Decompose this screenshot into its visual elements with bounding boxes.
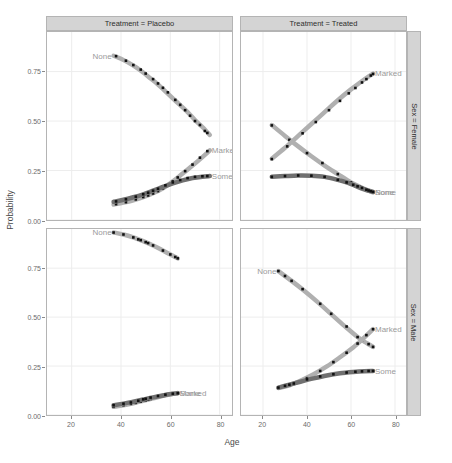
data-point — [112, 404, 115, 407]
data-point — [361, 370, 364, 373]
data-point — [345, 351, 348, 354]
series-marked: Marked — [277, 325, 402, 389]
data-point — [176, 392, 179, 395]
data-point — [319, 302, 322, 305]
facet-panel-female-placebo: NoneMarkedSome — [46, 31, 233, 221]
data-point — [125, 59, 128, 62]
data-point — [339, 100, 342, 103]
facet-strip-col-label: Treatment = Treated — [290, 19, 358, 28]
x-axis-tick-mark — [307, 416, 308, 419]
data-point — [284, 385, 287, 388]
x-axis-tick-label: 80 — [217, 421, 225, 428]
curve-label-some: Some — [375, 367, 396, 376]
y-axis-tick-label: 0.25 — [14, 168, 41, 175]
data-point — [288, 383, 291, 386]
x-axis-tick-mark — [351, 416, 352, 419]
data-point — [345, 181, 348, 184]
curve-label-none: None — [257, 267, 277, 276]
data-point — [162, 87, 165, 90]
data-point — [157, 395, 160, 398]
series-band — [114, 56, 210, 135]
data-point — [191, 163, 194, 166]
series-band — [278, 271, 373, 347]
data-point — [356, 336, 359, 339]
data-point — [144, 241, 147, 244]
panel-plot-area: NoneMarkedSome — [47, 32, 232, 220]
data-point — [137, 238, 140, 241]
data-point — [172, 181, 175, 184]
curve-label-marked: Marked — [375, 69, 402, 78]
data-point — [132, 64, 135, 67]
data-point — [152, 244, 155, 247]
data-point — [147, 242, 150, 245]
x-axis-tick-mark — [71, 416, 72, 419]
data-point — [372, 346, 375, 349]
series-some: Some — [112, 389, 201, 406]
series-band — [114, 176, 210, 202]
data-point — [365, 334, 368, 337]
data-point — [277, 270, 280, 273]
x-axis-tick-mark — [396, 416, 397, 419]
y-axis-tick-label: 0.75 — [14, 264, 41, 271]
data-point — [293, 382, 296, 385]
data-point — [301, 288, 304, 291]
data-point — [271, 124, 274, 127]
facet-strip-row-1: Sex = Male — [407, 228, 421, 416]
data-point — [206, 132, 209, 135]
data-point — [356, 342, 359, 345]
y-axis-tick-label: 0.75 — [14, 68, 41, 75]
y-axis-tick-label: 0.50 — [14, 314, 41, 321]
data-point — [157, 82, 160, 85]
data-point — [169, 253, 172, 256]
data-point — [149, 396, 152, 399]
x-axis-tick-mark — [171, 416, 172, 419]
data-point — [297, 174, 300, 177]
y-axis-tick-mark — [42, 416, 45, 417]
series-some: Some — [277, 367, 396, 389]
curve-label-marked: Marked — [375, 325, 402, 334]
data-point — [204, 130, 207, 133]
data-point — [345, 371, 348, 374]
series-none: None — [92, 52, 209, 135]
data-point — [139, 239, 142, 242]
data-point — [354, 370, 357, 373]
data-point — [372, 328, 375, 331]
x-axis-tick-mark — [221, 416, 222, 419]
y-axis-tick-label: 0.50 — [14, 118, 41, 125]
data-point — [137, 399, 140, 402]
data-point — [337, 173, 340, 176]
curve-label-some: Some — [180, 389, 201, 398]
data-point — [201, 175, 204, 178]
grid-lines — [47, 229, 232, 415]
data-point — [174, 256, 177, 259]
data-point — [315, 121, 318, 124]
data-point — [122, 233, 125, 236]
x-axis-tick-label: 40 — [117, 421, 125, 428]
facet-panel-male-placebo: NoneMarkedSome — [46, 228, 233, 416]
data-point — [172, 392, 175, 395]
data-point — [135, 195, 138, 198]
data-point — [189, 114, 192, 117]
data-point — [139, 68, 142, 71]
data-point — [348, 92, 351, 95]
x-axis-tick-label: 80 — [392, 421, 400, 428]
y-axis-tick-mark — [42, 367, 45, 368]
grid-lines — [241, 229, 406, 415]
curve-label-some: Some — [212, 172, 232, 181]
data-point — [332, 361, 335, 364]
facet-strip-col-0: Treatment = Placebo — [46, 16, 233, 31]
x-axis-tick-mark — [121, 416, 122, 419]
x-axis-tick-label: 20 — [67, 421, 75, 428]
data-point — [354, 87, 357, 90]
data-point — [323, 176, 326, 179]
x-axis-title: Age — [46, 437, 418, 447]
facet-strip-col-label: Treatment = Placebo — [105, 19, 175, 28]
series-none: None — [257, 267, 374, 348]
data-point — [184, 109, 187, 112]
data-point — [176, 176, 179, 179]
y-axis-tick-label: 0.25 — [14, 363, 41, 370]
data-point — [321, 162, 324, 165]
facet-strip-col-1: Treatment = Treated — [240, 16, 407, 31]
series-none: None — [92, 229, 179, 260]
data-point — [372, 370, 375, 373]
